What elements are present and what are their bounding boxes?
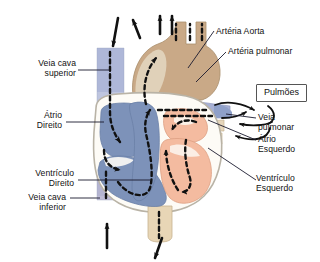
- label-arteria-pulmonar: Artéria pulmonar: [228, 46, 320, 56]
- heart-diagram: Veia cava superior Átrio Direito Ventríc…: [0, 0, 320, 262]
- label-veia-cava-superior: Veia cava superior: [10, 58, 76, 78]
- label-atrio-esquerdo: Átrio Esquerdo: [258, 134, 320, 154]
- label-atrio-direito: Átrio Direito: [10, 110, 62, 130]
- label-arteria-aorta: Artéria Aorta: [216, 26, 316, 36]
- label-ventriculo-direito: Ventrículo Direito: [8, 168, 74, 188]
- label-veia-cava-inferior: Veia cava inferior: [8, 192, 66, 212]
- label-ventriculo-esquerdo: Ventrículo Esquerdo: [256, 173, 320, 193]
- label-pulmoes: Pulmões: [256, 84, 307, 102]
- label-veia-pulmonar: Veia pulmonar: [258, 112, 320, 132]
